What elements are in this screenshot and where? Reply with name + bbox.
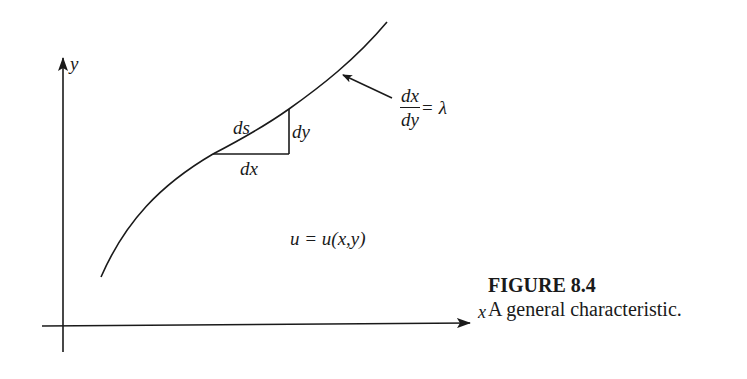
dx-label: dx bbox=[240, 159, 258, 178]
function-label: u = u(x,y) bbox=[290, 229, 366, 248]
slope-fraction: dx dy bbox=[400, 86, 420, 129]
slope-numerator: dx bbox=[400, 86, 420, 108]
characteristic-diagram bbox=[0, 0, 747, 379]
dy-label: dy bbox=[292, 122, 310, 141]
figure-canvas: y x ds dy dx dx dy = λ u = u(x,y) FIGURE… bbox=[0, 0, 747, 379]
slope-pointer-arrow bbox=[343, 75, 392, 98]
x-axis-label: x bbox=[478, 303, 486, 321]
x-axis bbox=[42, 323, 470, 326]
ds-label: ds bbox=[233, 118, 250, 137]
slope-lambda: λ bbox=[439, 98, 447, 117]
slope-equation: dx dy = λ bbox=[400, 86, 447, 129]
figure-number: FIGURE 8.4 bbox=[488, 273, 682, 297]
figure-description: A general characteristic. bbox=[488, 297, 682, 321]
y-axis-label: y bbox=[70, 54, 78, 73]
slope-denominator: dy bbox=[401, 108, 419, 129]
slope-equals-sign: = bbox=[422, 98, 433, 117]
figure-caption: FIGURE 8.4 A general characteristic. bbox=[488, 273, 682, 321]
